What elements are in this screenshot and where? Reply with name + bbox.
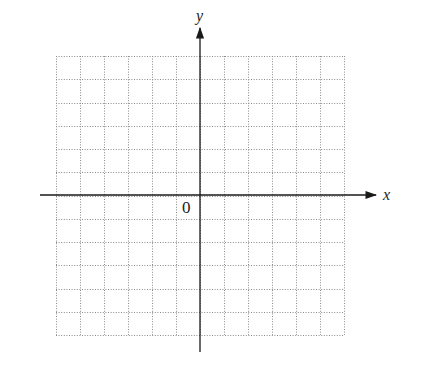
coordinate-plane: x y 0: [0, 0, 422, 374]
origin-label: 0: [182, 198, 191, 217]
x-axis-label: x: [382, 186, 390, 203]
y-axis-label: y: [194, 7, 204, 25]
